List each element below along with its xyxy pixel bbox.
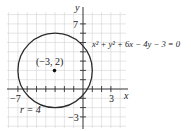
center-point: [53, 69, 57, 73]
x-tick-label-neg7: −7: [10, 93, 21, 104]
center-label: (−3, 2): [36, 56, 63, 68]
x-axis-label: x: [123, 90, 129, 101]
x-tick-label-3: 3: [109, 93, 114, 104]
equation-label: x² + y² + 6x − 4y − 3 = 0: [91, 39, 181, 49]
y-tick-label-neg3: −3: [68, 112, 79, 123]
y-tick-label-7: 7: [73, 19, 78, 30]
coordinate-plane: y x 7 −3 −7 3 (−3, 2) r = 4 x² + y² + 6x…: [0, 0, 191, 131]
y-axis-label: y: [74, 2, 80, 13]
radius-label: r = 4: [20, 104, 41, 115]
